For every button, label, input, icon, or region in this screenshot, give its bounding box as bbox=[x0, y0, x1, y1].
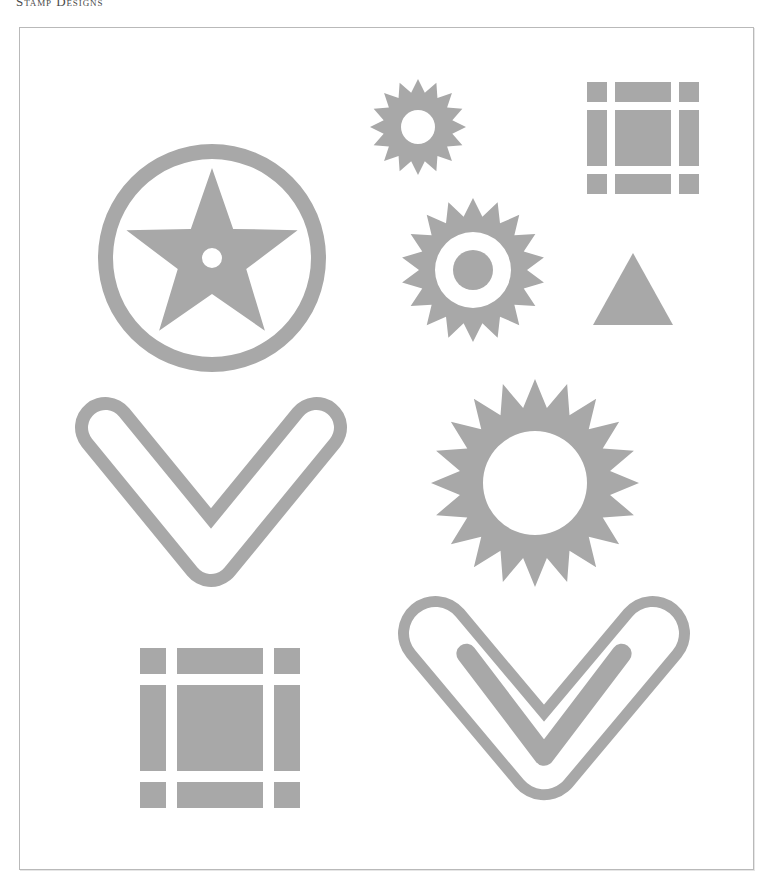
large-sunburst-stamp bbox=[431, 379, 639, 587]
square-frame-graphic-large bbox=[140, 648, 300, 808]
starburst-shape bbox=[370, 79, 466, 175]
chevron-outline-graphic bbox=[75, 397, 347, 587]
square-frame-block bbox=[615, 82, 671, 102]
square-frame-block bbox=[140, 685, 166, 771]
star-in-ring-graphic bbox=[98, 144, 326, 372]
square-frame-block bbox=[274, 782, 300, 808]
square-frame-block bbox=[587, 82, 607, 102]
square-frame-block bbox=[177, 782, 263, 808]
star-in-ring-stamp bbox=[98, 144, 326, 372]
chevron-inner-cut bbox=[106, 428, 317, 557]
square-frame-block bbox=[679, 174, 699, 194]
square-frame-block bbox=[615, 110, 671, 166]
square-frame-stamp-small bbox=[587, 82, 699, 194]
square-frame-block bbox=[587, 174, 607, 194]
square-frame-block bbox=[274, 685, 300, 771]
sunburst-shape bbox=[431, 379, 639, 587]
square-frame-block bbox=[615, 174, 671, 194]
double-chevron-graphic bbox=[398, 596, 690, 818]
square-frame-block bbox=[679, 110, 699, 166]
large-sunburst-graphic bbox=[431, 379, 639, 587]
centre-dot-shape bbox=[453, 250, 493, 290]
square-frame-block bbox=[177, 685, 263, 771]
triangle-shape bbox=[593, 253, 673, 325]
plate-frame bbox=[19, 27, 754, 870]
medium-starburst-stamp bbox=[401, 198, 545, 342]
square-frame-graphic-small bbox=[587, 82, 699, 194]
square-frame-block bbox=[177, 648, 263, 674]
square-frame-block bbox=[679, 82, 699, 102]
star-shape bbox=[126, 168, 297, 331]
square-frame-block bbox=[274, 648, 300, 674]
triangle-graphic bbox=[593, 253, 673, 325]
square-frame-block bbox=[587, 110, 607, 166]
double-chevron-stamp bbox=[398, 596, 690, 818]
square-frame-stamp-large bbox=[140, 648, 300, 808]
medium-starburst-graphic bbox=[401, 198, 545, 342]
running-head: Stamp Designs bbox=[16, 0, 103, 10]
square-frame-block bbox=[140, 648, 166, 674]
small-starburst-stamp bbox=[370, 79, 466, 175]
square-frame-block bbox=[140, 782, 166, 808]
chevron-outline-stamp bbox=[75, 397, 347, 587]
triangle-stamp bbox=[593, 253, 673, 325]
small-starburst-graphic bbox=[370, 79, 466, 175]
